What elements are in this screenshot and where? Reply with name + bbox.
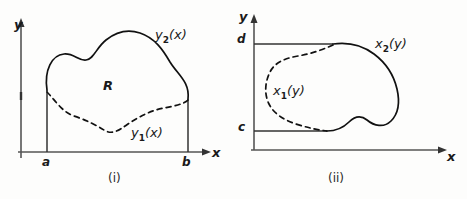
panel-caption-i: (i) bbox=[108, 172, 121, 184]
panel-type-ii-region: y x d c x2(y) x1(y) (ii) bbox=[234, 0, 467, 199]
curve-label-y2: y2(x) bbox=[155, 28, 187, 45]
x-axis-label-ii: x bbox=[447, 150, 455, 163]
panel-type-i-region: y x a b y2(x) y1(x) R (i) bbox=[0, 0, 234, 199]
curve-label-x2-arg: (y) bbox=[389, 36, 407, 51]
curve-label-y1-arg: (x) bbox=[145, 125, 163, 140]
curve-label-x1-arg: (y) bbox=[287, 83, 305, 98]
x-tick-label-a: a bbox=[42, 156, 50, 168]
y-axis-i bbox=[18, 18, 25, 158]
curve-label-x1: x1(y) bbox=[273, 84, 305, 101]
panel-caption-ii: (ii) bbox=[328, 172, 344, 184]
curve-label-y2-arg: (x) bbox=[169, 27, 187, 42]
x-axis-ii bbox=[251, 147, 447, 154]
curve-y1-lower-dashed bbox=[47, 92, 188, 132]
panel-ii-drawing bbox=[234, 0, 467, 199]
y-axis-label-i: y bbox=[14, 18, 22, 31]
curve-label-y1-base: y bbox=[131, 125, 139, 140]
curve-label-y2-base: y bbox=[155, 27, 163, 42]
curve-label-y1: y1(x) bbox=[131, 126, 163, 143]
x-tick-label-b: b bbox=[182, 156, 191, 168]
curve-label-x1-base: x bbox=[273, 83, 281, 98]
region-label-R: R bbox=[103, 79, 113, 92]
curve-label-x2: x2(y) bbox=[375, 37, 407, 54]
curve-label-x2-base: x bbox=[375, 36, 383, 51]
y-axis-ii bbox=[251, 14, 258, 150]
y-tick-label-d: d bbox=[237, 33, 246, 45]
x-axis-label-i: x bbox=[212, 146, 220, 159]
y-axis-label-ii: y bbox=[239, 10, 247, 23]
figure-container: y x a b y2(x) y1(x) R (i) bbox=[0, 0, 467, 199]
panel-i-drawing bbox=[0, 0, 234, 199]
curve-x2-right-solid bbox=[327, 43, 398, 131]
y-tick-label-c: c bbox=[238, 121, 245, 133]
